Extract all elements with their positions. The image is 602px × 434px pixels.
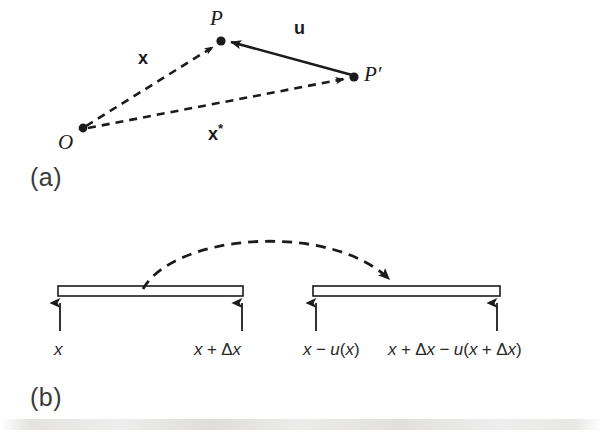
reference-bar <box>58 286 243 296</box>
vector-label-x-star: x* <box>208 121 223 145</box>
point-O-dot <box>79 124 88 133</box>
panel-b-graphics <box>58 241 500 331</box>
tick-label-x: x <box>54 340 63 360</box>
vector-u-line <box>231 42 352 75</box>
panel-a-graphics <box>79 36 359 132</box>
panel-a-caption: (a) <box>30 163 62 192</box>
point-P-dot <box>216 36 225 45</box>
vector-label-x: x <box>138 48 148 69</box>
vector-label-x-star-superscript: * <box>218 121 223 136</box>
point-P-prime-dot <box>349 72 358 81</box>
point-label-P: P <box>210 6 223 31</box>
vector-label-u: u <box>294 18 305 39</box>
panel-b-caption: (b) <box>30 383 62 412</box>
tick-label-x-plus-delta-x: x + Δx <box>194 340 241 360</box>
displaced-bar <box>313 286 500 296</box>
vector-x-line <box>86 47 213 126</box>
displacement-arc <box>143 241 389 289</box>
point-label-O: O <box>58 130 73 155</box>
point-label-P-prime: P′ <box>364 62 381 87</box>
tick-label-x-plus-delta-x-minus-u: x + Δx − u(x + Δx) <box>388 340 522 360</box>
displacement-figure <box>0 0 602 434</box>
tick-label-x-minus-u-x: x − u(x) <box>303 340 360 360</box>
vector-label-x-star-base: x <box>208 124 218 144</box>
